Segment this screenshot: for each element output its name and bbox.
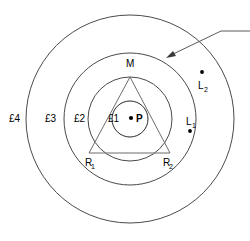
point-sublabel-r1: 1 <box>91 163 95 170</box>
leader-arrowhead-icon <box>166 51 176 58</box>
leader-line-diagonal <box>169 31 221 56</box>
point-dot-p <box>129 116 133 120</box>
point-sublabel-r2: 2 <box>169 163 173 170</box>
zone-label-e4: £4 <box>9 113 21 124</box>
point-dot-l1 <box>188 129 192 133</box>
zone-label-e2: £2 <box>74 113 86 124</box>
point-dot-l2 <box>200 70 204 74</box>
zone-label-e3: £3 <box>45 113 57 124</box>
point-label-m: M <box>126 58 134 69</box>
point-sublabel-l1: 1 <box>192 122 196 129</box>
diagram-svg: £4 £3 £2 £1 P M R 1 R 2 L 1 L 2 <box>0 0 250 241</box>
zone-label-e1: £1 <box>108 113 120 124</box>
point-sublabel-l2: 2 <box>204 86 208 93</box>
point-label-p: P <box>136 113 143 124</box>
figure-canvas: £4 £3 £2 £1 P M R 1 R 2 L 1 L 2 <box>0 0 250 241</box>
